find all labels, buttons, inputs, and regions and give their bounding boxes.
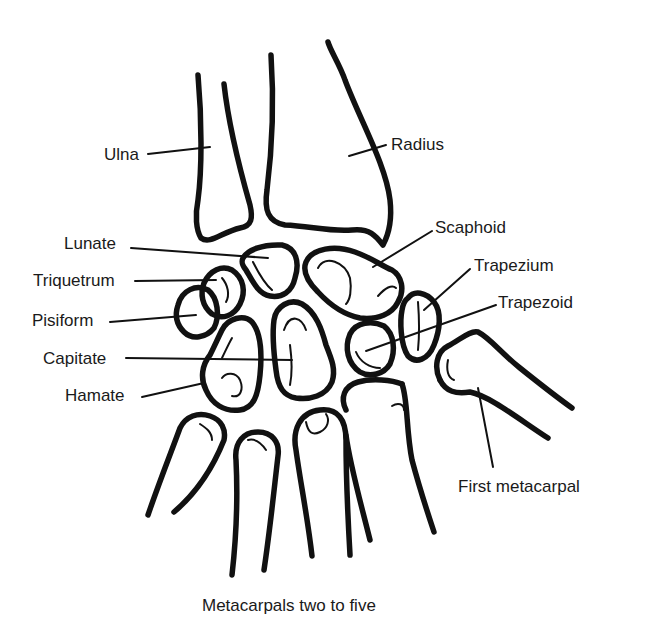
- radius-bone: [266, 42, 391, 245]
- ulna-bone: [196, 75, 251, 240]
- triquetrum-leader: [135, 280, 216, 281]
- label-ulna: Ulna: [104, 146, 139, 163]
- trapezium-leader: [424, 269, 470, 310]
- label-metacarpals-two-to-five: Metacarpals two to five: [202, 597, 376, 614]
- label-trapezium: Trapezium: [474, 257, 554, 274]
- capitate-leader: [126, 358, 292, 360]
- label-radius: Radius: [391, 136, 444, 153]
- wrist-bones-diagram: [0, 0, 648, 638]
- hamate-leader: [142, 383, 204, 397]
- label-pisiform: Pisiform: [32, 312, 93, 329]
- label-first-metacarpal: First metacarpal: [458, 478, 580, 495]
- metacarpals-two-to-five: [148, 380, 434, 575]
- label-scaphoid: Scaphoid: [435, 219, 506, 236]
- label-capitate: Capitate: [43, 350, 106, 367]
- radius-leader: [349, 145, 386, 156]
- label-triquetrum: Triquetrum: [33, 272, 115, 289]
- lunate-bone: [242, 245, 297, 296]
- first-metacarpal-bone: [437, 332, 572, 438]
- scaphoid-leader: [373, 231, 432, 267]
- label-trapezoid: Trapezoid: [498, 294, 573, 311]
- capitate-bone: [273, 302, 333, 398]
- label-lunate: Lunate: [64, 235, 116, 252]
- pisiform-leader: [110, 315, 196, 322]
- label-hamate: Hamate: [65, 387, 125, 404]
